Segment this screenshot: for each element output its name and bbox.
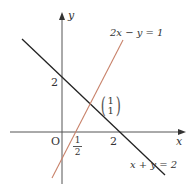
y-intercept-label: 2 (51, 77, 58, 88)
right-paren: ) (116, 95, 121, 117)
coordinate-diagram: y x O 2 2 1 2 ( 1 1 ) 2x − y = 1 x + y =… (0, 0, 194, 190)
black-line-equation: x + y = 2 (130, 160, 177, 170)
x-intercept-label: 2 (110, 136, 117, 147)
x-axis-label: x (176, 136, 182, 147)
y-axis-arrow-icon (59, 12, 65, 20)
origin-label: O (51, 136, 60, 147)
intersection-vector: ( 1 1 ) (99, 95, 123, 117)
fraction-denominator: 2 (75, 147, 81, 157)
line-x-plus-y-eq-2 (22, 39, 165, 175)
x-intercept-half-fraction: 1 2 (73, 136, 82, 157)
fraction-numerator: 1 (75, 135, 81, 145)
vector-bottom: 1 (108, 106, 114, 117)
left-paren: ( (101, 95, 106, 117)
orange-line-equation: 2x − y = 1 (110, 28, 164, 38)
y-axis-label: y (68, 10, 74, 21)
